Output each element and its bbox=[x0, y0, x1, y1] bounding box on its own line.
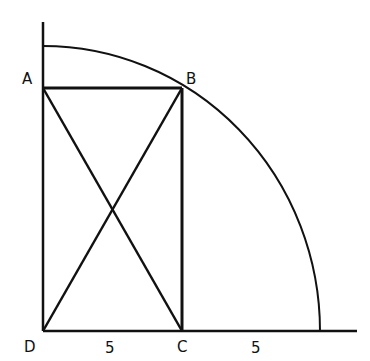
label-B: B bbox=[186, 72, 196, 87]
label-D: D bbox=[24, 340, 36, 355]
label-C: C bbox=[177, 340, 187, 355]
label-A: A bbox=[22, 72, 32, 87]
geometry-diagram bbox=[0, 0, 370, 361]
label-C-arc-length: 5 bbox=[251, 341, 261, 356]
label-DC-length: 5 bbox=[105, 341, 115, 356]
